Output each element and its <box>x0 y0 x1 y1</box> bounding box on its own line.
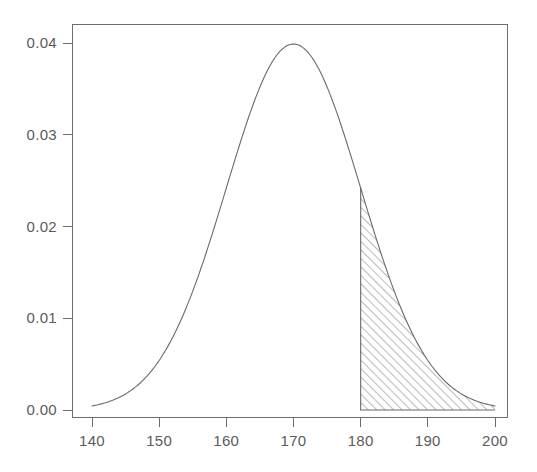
x-tick-label-170: 170 <box>281 432 307 449</box>
plot-canvas: 140150160170180190200 0.000.010.020.030.… <box>0 0 537 472</box>
y-tick-label-0.00: 0.00 <box>27 401 57 418</box>
x-tick-label-190: 190 <box>415 432 441 449</box>
x-tick-label-180: 180 <box>348 432 374 449</box>
y-tick-label-0.02: 0.02 <box>27 218 57 235</box>
y-axis-ticks <box>63 43 72 410</box>
x-axis-ticks <box>92 418 495 427</box>
x-tick-label-160: 160 <box>213 432 239 449</box>
x-tick-label-200: 200 <box>482 432 508 449</box>
y-tick-label-0.03: 0.03 <box>27 126 57 143</box>
x-axis-tick-labels: 140150160170180190200 <box>79 432 508 449</box>
x-tick-label-150: 150 <box>146 432 172 449</box>
y-tick-label-0.01: 0.01 <box>27 309 57 326</box>
shaded-tail-region <box>361 188 495 410</box>
y-axis-tick-labels: 0.000.010.020.030.04 <box>27 34 57 418</box>
plot-frame <box>73 25 508 418</box>
density-curve-group <box>92 44 495 406</box>
y-tick-label-0.04: 0.04 <box>27 34 57 51</box>
x-tick-label-140: 140 <box>79 432 105 449</box>
density-plot-figure: 140150160170180190200 0.000.010.020.030.… <box>0 0 537 472</box>
